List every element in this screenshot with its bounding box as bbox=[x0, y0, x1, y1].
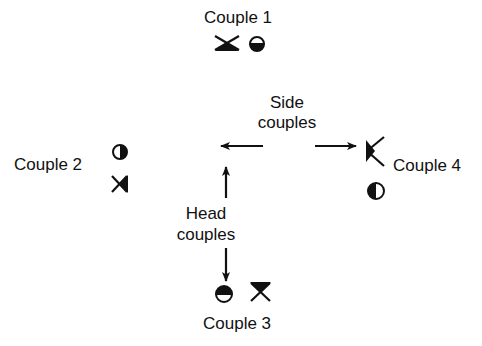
couple-2-man-icon bbox=[112, 175, 128, 193]
couple-2-woman-icon bbox=[113, 145, 127, 159]
diagram-canvas bbox=[0, 0, 482, 346]
couple-1-woman-icon bbox=[250, 37, 265, 51]
couple-3-woman-icon bbox=[216, 286, 233, 302]
couple-4-man-icon bbox=[366, 137, 384, 166]
couple-1-man-icon bbox=[215, 36, 239, 51]
couple-3-man-icon bbox=[250, 282, 271, 301]
couple-4-woman-icon bbox=[368, 183, 384, 199]
